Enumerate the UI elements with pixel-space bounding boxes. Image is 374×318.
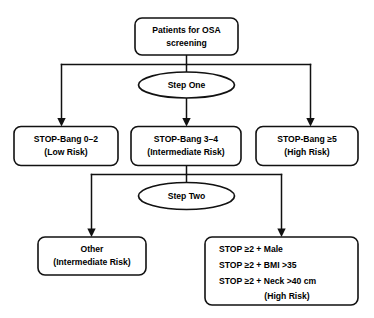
node-step-one[interactable]: Step One — [139, 72, 235, 98]
arrowhead-intermediate-risk — [182, 118, 190, 127]
arrowhead-other — [87, 229, 95, 238]
node-low-risk-line-2: (Low Risk) — [44, 147, 88, 157]
node-high-risk-criteria-line-2: STOP ≥2 + BMI >35 — [219, 260, 297, 270]
flowchart-canvas: Patients for OSA screening Step One STOP… — [0, 0, 374, 318]
node-step-two[interactable]: Step Two — [139, 183, 235, 210]
node-root-box — [135, 18, 238, 55]
node-stop-bang-low-risk[interactable]: STOP-Bang 0–2 (Low Risk) — [14, 127, 118, 166]
arrowhead-high-risk-criteria — [277, 229, 285, 238]
node-high-risk-criteria-line-3: STOP ≥2 + Neck >40 cm — [219, 276, 316, 286]
node-other-intermediate-risk[interactable]: Other (Intermediate Risk) — [38, 237, 146, 275]
node-stop-bang-high-risk[interactable]: STOP-Bang ≥5 (High Risk) — [256, 127, 358, 166]
node-high-risk-criteria-line-1: STOP ≥2 + Male — [219, 244, 283, 254]
node-root-line-2: screening — [166, 38, 207, 48]
arrowhead-high-risk — [306, 118, 314, 127]
node-high-risk-line-1: STOP-Bang ≥5 — [277, 134, 337, 144]
node-other-line-2: (Intermediate Risk) — [53, 257, 131, 267]
node-high-risk-line-2: (High Risk) — [284, 147, 329, 157]
node-step-one-label: Step One — [168, 80, 206, 90]
node-low-risk-line-1: STOP-Bang 0–2 — [34, 134, 99, 144]
node-root-line-1: Patients for OSA — [152, 25, 220, 35]
node-stop-bang-intermediate-risk[interactable]: STOP-Bang 3–4 (Intermediate Risk) — [131, 127, 241, 166]
node-intermediate-risk-line-1: STOP-Bang 3–4 — [154, 134, 219, 144]
flowchart-diagram: Patients for OSA screening Step One STOP… — [0, 0, 374, 318]
node-intermediate-risk-line-2: (Intermediate Risk) — [147, 147, 225, 157]
arrowhead-low-risk — [57, 118, 65, 127]
node-high-risk-criteria-line-4: (High Risk) — [264, 291, 309, 301]
node-other-line-1: Other — [81, 244, 105, 254]
node-step-two-label: Step Two — [168, 191, 206, 201]
node-high-risk-criteria[interactable]: STOP ≥2 + Male STOP ≥2 + BMI >35 STOP ≥2… — [205, 237, 358, 305]
node-patients-for-osa-screening[interactable]: Patients for OSA screening — [135, 18, 238, 55]
